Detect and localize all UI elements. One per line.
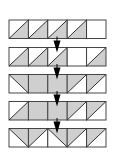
tile-cell-tr [9,129,28,148]
tile-cell-tr [9,75,28,94]
tile-cell-br [48,20,67,39]
tile-cell-tl [67,129,86,148]
tile-cell-br [28,20,47,39]
tile-cell-tl [87,102,106,121]
tile-sequence-diagram [0,0,115,156]
tile-cell-empty [87,20,106,39]
tile-cell-tl [67,75,86,94]
tile-cell-full [28,102,47,121]
tile-cell-br [9,20,28,39]
tile-cell-br [67,20,86,39]
tile-cell-empty [67,48,86,67]
tile-cell-br [87,48,106,67]
tile-cell-br [9,102,28,121]
tile-cell-tl [67,102,86,121]
tile-cell-tl [28,129,47,148]
tile-cell-tl [87,75,106,94]
tile-cell-br [28,48,47,67]
tile-cell-tl [87,129,106,148]
tile-cell-br [9,48,28,67]
tile-cell-full [28,75,47,94]
tile-row-1 [9,20,106,39]
